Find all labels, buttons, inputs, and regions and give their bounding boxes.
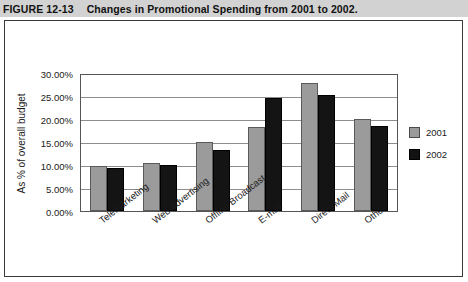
bar-2001-other	[354, 119, 371, 211]
bar-group	[81, 75, 134, 211]
bar-group	[292, 75, 345, 211]
y-axis-title: As % of overall budget	[13, 69, 29, 217]
figure-caption-text: Changes in Promotional Spending from 200…	[74, 3, 358, 15]
y-axis-tick-label: 10.00%	[41, 161, 73, 172]
y-axis-tick-label: 30.00%	[41, 69, 73, 80]
bar-2002-other	[371, 126, 388, 211]
legend-swatch-2002	[409, 149, 420, 160]
bar-2001-e-mail	[248, 127, 265, 211]
y-axis-tick-label: 5.00%	[46, 184, 73, 195]
legend-label-2002: 2002	[426, 149, 447, 160]
bar-2001-direct-mail	[301, 83, 318, 211]
bar-group	[344, 75, 397, 211]
x-axis-category-labels: TelemarketingWeb AdvertisingOffline Broa…	[80, 213, 398, 282]
y-axis-title-text: As % of overall budget	[16, 93, 27, 193]
legend-item-2002: 2002	[409, 146, 463, 163]
y-axis-tick-label: 20.00%	[41, 115, 73, 126]
legend-item-2001: 2001	[409, 124, 463, 141]
chart-legend: 20012002	[409, 124, 463, 168]
legend-swatch-2001	[409, 127, 420, 138]
bar-2002-direct-mail	[318, 95, 335, 211]
y-axis-tick-label: 15.00%	[41, 138, 73, 149]
figure-caption-bar: FIGURE 12-13 Changes in Promotional Spen…	[0, 0, 468, 17]
chart-frame: As % of overall budget 0.00%5.00%10.00%1…	[4, 20, 463, 277]
bar-2002-e-mail	[265, 98, 282, 211]
y-axis-tick-label: 25.00%	[41, 92, 73, 103]
y-axis-tick-label: 0.00%	[46, 207, 73, 218]
bar-2001-telemarketing	[90, 166, 107, 211]
legend-label-2001: 2001	[426, 127, 447, 138]
figure-number: FIGURE 12-13	[0, 3, 74, 15]
y-axis-tick-labels: 0.00%5.00%10.00%15.00%20.00%25.00%30.00%	[29, 69, 77, 217]
